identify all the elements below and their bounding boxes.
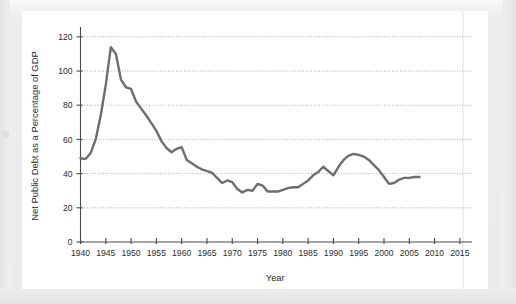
y-tick-label: 80 — [63, 100, 73, 110]
x-tick-label: 1995 — [349, 248, 368, 258]
x-tick-label: 2015 — [450, 248, 469, 258]
x-tick-label: 2010 — [425, 248, 444, 258]
y-axis-title: Net Public Debt as a Percentage of GDP — [29, 51, 40, 220]
x-tick-label: 1955 — [147, 248, 166, 258]
y-tick-label: 120 — [58, 32, 73, 42]
x-axis-title: Year — [266, 272, 285, 283]
x-tick-label: 1970 — [223, 248, 242, 258]
x-tick-label: 1950 — [122, 248, 141, 258]
x-tick-label: 1985 — [299, 248, 318, 258]
line-chart: 020406080100120 194019451950195519601965… — [0, 0, 516, 304]
x-tick-label: 2000 — [374, 248, 393, 258]
y-tick-label: 0 — [68, 237, 73, 247]
y-tick-label: 100 — [58, 66, 73, 76]
data-series-line — [81, 47, 420, 192]
x-tick-label: 1940 — [71, 248, 90, 258]
x-tick-label: 1990 — [324, 248, 343, 258]
chart-svg: 020406080100120 194019451950195519601965… — [0, 0, 516, 304]
y-tick-label: 40 — [63, 169, 73, 179]
gridlines — [82, 37, 473, 208]
y-axis-ticks: 020406080100120 — [58, 32, 82, 247]
x-tick-label: 1945 — [96, 248, 115, 258]
x-tick-label: 1965 — [197, 248, 216, 258]
x-axis-ticks: 1940194519501955196019651970197519801985… — [71, 238, 470, 258]
x-tick-label: 1980 — [273, 248, 292, 258]
y-tick-label: 20 — [63, 203, 73, 213]
x-tick-label: 2005 — [400, 248, 419, 258]
x-tick-label: 1975 — [248, 248, 267, 258]
x-tick-label: 1960 — [172, 248, 191, 258]
y-tick-label: 60 — [63, 135, 73, 145]
